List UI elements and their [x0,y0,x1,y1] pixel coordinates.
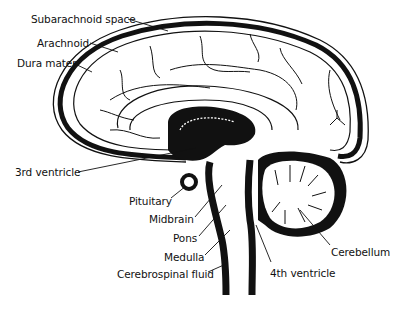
label-subarachnoid-space: Subarachnoid space [31,13,136,25]
label-cerebellum: Cerebellum [331,246,390,258]
label-pituitary: Pituitary [129,195,172,207]
label-fourth-ventricle: 4th ventricle [270,267,335,279]
label-medulla: Medulla [164,251,204,263]
label-third-ventricle: 3rd ventricle [15,166,80,178]
label-dura-mater: Dura mater [17,57,76,69]
pituitary-gland [182,175,196,189]
label-cerebrospinal-fluid: Cerebrospinal fluid [117,268,214,280]
cerebellum-tissue [262,161,334,229]
label-midbrain: Midbrain [149,213,194,225]
label-arachnoid: Arachnoid [37,37,89,49]
ventricle-mass [168,107,255,161]
brainstem-back-wall [249,160,253,295]
label-pons: Pons [173,232,197,244]
